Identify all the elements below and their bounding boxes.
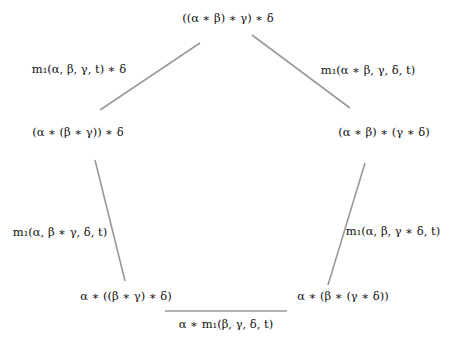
edge-label-top-right: m₁(α ∗ β, γ, δ, t) — [321, 65, 415, 77]
edge-label-bottom: α ∗ m₁(β, γ, δ, t) — [179, 319, 273, 331]
node-top: ((α ∗ β) ∗ γ) ∗ δ — [182, 13, 274, 25]
pentagon-diagram: ((α ∗ β) ∗ γ) ∗ δ (α ∗ (β ∗ γ)) ∗ δ (α ∗… — [0, 0, 452, 347]
edge-top-left — [100, 43, 200, 110]
node-right: (α ∗ β) ∗ (γ ∗ δ) — [338, 127, 430, 139]
edge-label-right: m₁(α, β, γ ∗ δ, t) — [346, 226, 440, 238]
node-bottom-right: α ∗ (β ∗ (γ ∗ δ)) — [297, 291, 389, 303]
edge-label-left: m₁(α, β ∗ γ, δ, t) — [13, 227, 107, 239]
node-left: (α ∗ (β ∗ γ)) ∗ δ — [32, 127, 124, 139]
edge-left — [95, 160, 125, 281]
edge-label-top-left: m₁(α, β, γ, t) ∗ δ — [32, 64, 126, 76]
node-bottom-left: α ∗ ((β ∗ γ) ∗ δ) — [80, 291, 172, 303]
